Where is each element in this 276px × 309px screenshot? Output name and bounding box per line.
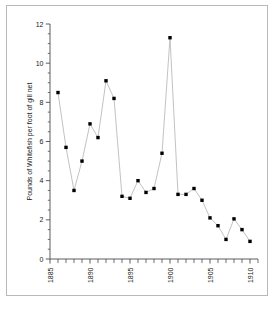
data-point-marker [184, 193, 187, 196]
y-tick-label: 4 [40, 177, 44, 184]
data-point-marker [152, 187, 155, 190]
data-point-marker [168, 36, 171, 39]
y-tick-label: 10 [36, 60, 44, 67]
series-line [58, 38, 250, 242]
data-point-marker [136, 179, 139, 182]
data-point-marker [72, 189, 75, 192]
data-point-marker [216, 224, 219, 227]
data-point-marker [104, 79, 107, 82]
y-tick-label: 0 [40, 256, 44, 263]
data-point-marker [192, 187, 195, 190]
data-point-marker [96, 136, 99, 139]
x-tick-label: 1890 [87, 267, 94, 283]
data-point-marker [160, 152, 163, 155]
y-axis: 024681012 [36, 21, 50, 263]
data-point-marker [240, 228, 243, 231]
x-tick-label: 1895 [127, 267, 134, 283]
data-point-marker [120, 195, 123, 198]
data-point-marker [208, 216, 211, 219]
x-tick-label: 1885 [47, 267, 54, 283]
data-point-marker [80, 159, 83, 162]
data-point-marker [112, 97, 115, 100]
x-tick-label: 1905 [207, 267, 214, 283]
y-tick-label: 12 [36, 21, 44, 28]
data-point-marker [200, 199, 203, 202]
data-series [56, 36, 251, 243]
data-point-marker [144, 191, 147, 194]
data-point-marker [248, 240, 251, 243]
x-axis: 188518901895190019051910 [47, 259, 258, 283]
data-point-marker [64, 146, 67, 149]
y-tick-label: 2 [40, 216, 44, 223]
x-tick-label: 1910 [247, 267, 254, 283]
data-point-marker [224, 238, 227, 241]
y-axis-title-text: Pounds of Whitefish per foot of gill net [26, 82, 34, 200]
chart-plot: 024681012 188518901895190019051910 Pound… [0, 0, 276, 309]
x-tick-label: 1900 [167, 267, 174, 283]
data-point-marker [176, 193, 179, 196]
data-point-marker [88, 122, 91, 125]
y-axis-title: Pounds of Whitefish per foot of gill net [26, 82, 34, 200]
data-point-marker [56, 91, 59, 94]
data-point-marker [128, 197, 131, 200]
data-point-marker [232, 217, 235, 220]
chart-figure: 024681012 188518901895190019051910 Pound… [0, 0, 276, 309]
y-tick-label: 8 [40, 99, 44, 106]
y-tick-label: 6 [40, 138, 44, 145]
